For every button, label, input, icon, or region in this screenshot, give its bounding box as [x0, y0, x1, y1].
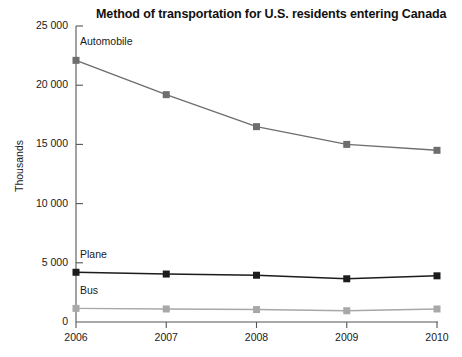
y-axis-tick-label: 25 000	[12, 19, 68, 31]
data-point-marker[interactable]	[73, 269, 80, 276]
series-label-automobile: Automobile	[80, 35, 133, 47]
data-point-marker[interactable]	[253, 306, 260, 313]
data-point-marker[interactable]	[343, 307, 350, 314]
series-plane	[73, 269, 441, 283]
x-axis-tick-label: 2008	[227, 331, 287, 343]
data-point-marker[interactable]	[434, 147, 441, 154]
data-point-marker[interactable]	[163, 271, 170, 278]
data-point-marker[interactable]	[253, 123, 260, 130]
data-point-marker[interactable]	[343, 275, 350, 282]
data-point-marker[interactable]	[163, 91, 170, 98]
plot-area	[0, 0, 462, 357]
series-label-bus: Bus	[80, 284, 98, 296]
series-line-automobile	[76, 60, 437, 150]
data-point-marker[interactable]	[163, 305, 170, 312]
y-axis-tick-label: 10 000	[12, 197, 68, 209]
y-axis-tick-label: 0	[12, 315, 68, 327]
series-label-plane: Plane	[80, 248, 107, 260]
x-axis-tick-label: 2006	[46, 331, 106, 343]
y-axis-tick-label: 20 000	[12, 78, 68, 90]
y-axis-tick-label: 5 000	[12, 256, 68, 268]
data-point-marker[interactable]	[73, 305, 80, 312]
chart-container: Method of transportation for U.S. reside…	[0, 0, 462, 357]
data-point-marker[interactable]	[73, 57, 80, 64]
data-point-marker[interactable]	[434, 305, 441, 312]
series-bus	[73, 305, 441, 314]
x-axis-tick-label: 2007	[136, 331, 196, 343]
data-point-marker[interactable]	[253, 272, 260, 279]
x-axis-tick-label: 2009	[317, 331, 377, 343]
x-axis-tick-label: 2010	[407, 331, 462, 343]
data-point-marker[interactable]	[343, 141, 350, 148]
series-automobile	[73, 57, 441, 154]
y-axis-tick-label: 15 000	[12, 137, 68, 149]
data-point-marker[interactable]	[434, 272, 441, 279]
